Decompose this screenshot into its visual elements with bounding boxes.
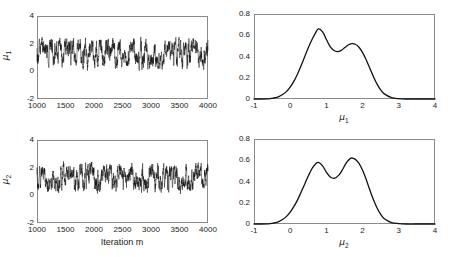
ytick-density-mu2-1: 0.2	[232, 199, 250, 207]
xtick-density-mu1-5: 4	[433, 102, 437, 110]
xtick-density-mu1-2: 1	[324, 102, 328, 110]
ylabel-trace-mu2-sub: 2	[5, 175, 12, 179]
ytick-density-mu1-1: 0.2	[232, 74, 250, 82]
xlabel-trace-mu2: Iteration m	[101, 238, 144, 247]
xtick-density-mu1-1: 0	[288, 102, 292, 110]
xtick-density-mu2-2: 1	[324, 227, 328, 235]
ytick-density-mu2-3: 0.6	[232, 156, 250, 164]
mcmc-diagnostics-figure: 4 2 0 -2 1000 1500 2000 2500 3000 3500 4…	[0, 0, 455, 257]
xtick-trace-mu2-6: 4000	[199, 226, 217, 234]
xtick-density-mu1-3: 2	[360, 102, 364, 110]
xtick-trace-mu2-4: 3000	[142, 226, 160, 234]
xtick-density-mu2-0: -1	[250, 227, 257, 235]
ytick-trace-mu2-3: 4	[22, 136, 34, 144]
panel-density-mu1: 0.8 0.6 0.4 0.2 0 -1 0 1 2 3 4 μ1	[228, 0, 455, 128]
xtick-trace-mu1-1: 1500	[57, 102, 75, 110]
panel-trace-mu2: 4 2 0 -2 1000 1500 2000 2500 3000 3500 4…	[0, 128, 228, 257]
xlabel-density-mu1: μ1	[339, 113, 348, 124]
xtick-trace-mu2-2: 2000	[85, 226, 103, 234]
panel-trace-mu1: 4 2 0 -2 1000 1500 2000 2500 3000 3500 4…	[0, 0, 228, 128]
ylabel-trace-mu1-base: μ	[0, 55, 10, 61]
xtick-trace-mu1-2: 2000	[85, 102, 103, 110]
ytick-trace-mu2-1: 0	[22, 191, 34, 199]
ytick-trace-mu1-2: 2	[22, 40, 34, 48]
xlabel-density-mu2: μ2	[339, 238, 348, 249]
ytick-density-mu2-0: 0	[232, 220, 250, 228]
panel-density-mu2: 0.8 0.6 0.4 0.2 0 -1 0 1 2 3 4 μ2	[228, 128, 455, 257]
xtick-trace-mu1-4: 3000	[142, 102, 160, 110]
ylabel-trace-mu1-sub: 1	[5, 51, 12, 55]
xtick-trace-mu1-3: 2500	[114, 102, 132, 110]
xtick-density-mu2-3: 2	[360, 227, 364, 235]
ytick-density-mu2-2: 0.4	[232, 178, 250, 186]
ylabel-trace-mu1: μ1	[1, 51, 12, 60]
ytick-density-mu1-2: 0.4	[232, 53, 250, 61]
xtick-density-mu2-1: 0	[288, 227, 292, 235]
xtick-trace-mu2-0: 1000	[28, 226, 46, 234]
xtick-trace-mu2-5: 3500	[171, 226, 189, 234]
ytick-trace-mu1-3: 4	[22, 12, 34, 20]
ytick-density-mu2-4: 0.8	[232, 135, 250, 143]
ylabel-trace-mu2-base: μ	[0, 179, 10, 185]
ytick-trace-mu2-2: 2	[22, 164, 34, 172]
xlabel-density-mu2-sub: 2	[345, 242, 349, 249]
ytick-trace-mu1-1: 0	[22, 67, 34, 75]
ytick-density-mu1-0: 0	[232, 95, 250, 103]
xtick-trace-mu2-3: 2500	[114, 226, 132, 234]
ytick-density-mu1-4: 0.8	[232, 10, 250, 18]
xlabel-density-mu1-sub: 1	[345, 117, 349, 124]
ytick-density-mu1-3: 0.6	[232, 31, 250, 39]
xtick-density-mu2-5: 4	[433, 227, 437, 235]
xtick-trace-mu1-5: 3500	[171, 102, 189, 110]
ylabel-trace-mu2: μ2	[1, 175, 12, 184]
xtick-density-mu1-0: -1	[250, 102, 257, 110]
density-mu1-curve	[228, 0, 455, 128]
xtick-density-mu1-4: 3	[397, 102, 401, 110]
xtick-trace-mu1-0: 1000	[28, 102, 46, 110]
xtick-density-mu2-4: 3	[397, 227, 401, 235]
xtick-trace-mu1-6: 4000	[199, 102, 217, 110]
xtick-trace-mu2-1: 1500	[57, 226, 75, 234]
